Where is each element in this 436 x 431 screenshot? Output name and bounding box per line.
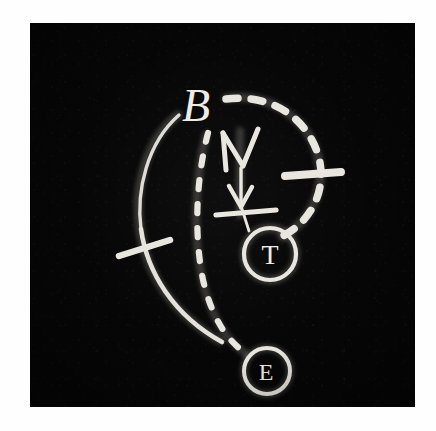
chalk-diagram: B T E [30, 23, 415, 407]
node-E: E [244, 348, 290, 394]
node-T: T [244, 228, 296, 280]
node-E-label: E [259, 359, 274, 385]
tick-center-arrow [216, 210, 276, 215]
node-T-label: T [261, 239, 278, 270]
node-B: B [182, 80, 210, 131]
node-B-label: B [182, 80, 210, 131]
page-canvas: B T E [0, 0, 436, 431]
tick-right-arc [285, 172, 341, 176]
chalkboard-photo: B T E [30, 23, 415, 407]
